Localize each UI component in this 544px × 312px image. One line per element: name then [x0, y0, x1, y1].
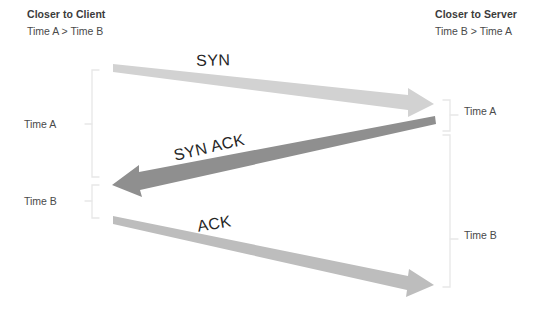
- header-client-subtitle: Time A > Time B: [27, 25, 103, 37]
- header-server-title: Closer to Server: [435, 8, 517, 20]
- handshake-diagram-graphic: [0, 0, 544, 312]
- bracket-label-right-time-b: Time B: [464, 229, 497, 241]
- bracket-label-left-time-a: Time A: [24, 118, 56, 130]
- arrow-syn: [113, 64, 434, 117]
- bracket-label-left-time-b: Time B: [24, 195, 57, 207]
- header-client-title: Closer to Client: [27, 8, 105, 20]
- header-server-subtitle: Time B > Time A: [435, 25, 512, 37]
- diagram-canvas: Closer to Client Time A > Time B Closer …: [0, 0, 544, 312]
- arrow-syn-ack: [112, 116, 436, 197]
- bracket-left-time-a: [85, 70, 99, 177]
- bracket-right-time-b: [443, 135, 458, 287]
- bracket-label-right-time-a: Time A: [464, 105, 496, 117]
- bracket-right-time-a: [443, 100, 458, 131]
- arrow-ack: [113, 216, 434, 297]
- arrow-label-syn: SYN: [196, 51, 231, 70]
- bracket-left-time-b: [85, 185, 99, 218]
